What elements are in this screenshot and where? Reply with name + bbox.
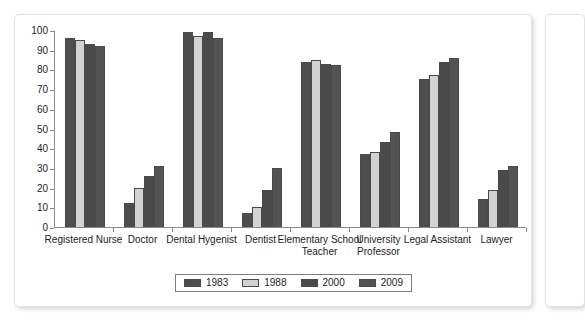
bar bbox=[380, 142, 390, 227]
y-tick-label: 100 bbox=[31, 26, 48, 36]
bar-group bbox=[232, 31, 291, 227]
plot-area: 0102030405060708090100 bbox=[54, 31, 526, 228]
y-tick-label: 70 bbox=[37, 85, 48, 95]
bar bbox=[154, 166, 164, 227]
y-tick-mark bbox=[50, 169, 54, 170]
y-tick-mark bbox=[50, 208, 54, 209]
legend-label: 1988 bbox=[264, 278, 286, 288]
bar bbox=[203, 32, 213, 227]
bar-group bbox=[468, 31, 527, 227]
y-tick-mark bbox=[50, 110, 54, 111]
bar bbox=[213, 38, 223, 227]
x-axis-category-label: Lawyer bbox=[454, 234, 540, 246]
legend-swatch bbox=[359, 279, 376, 287]
legend-item[interactable]: 1983 bbox=[184, 278, 228, 288]
x-tick-mark bbox=[526, 228, 527, 232]
bar bbox=[429, 75, 439, 227]
x-tick-mark bbox=[113, 228, 114, 232]
legend-label: 2000 bbox=[323, 278, 345, 288]
legend-swatch bbox=[301, 279, 318, 287]
legend-swatch bbox=[242, 279, 259, 287]
bar bbox=[301, 62, 311, 227]
y-tick-mark bbox=[50, 90, 54, 91]
bar bbox=[193, 36, 203, 227]
bar bbox=[262, 190, 272, 227]
y-tick-label: 50 bbox=[37, 125, 48, 135]
bar bbox=[498, 170, 508, 227]
bar bbox=[321, 64, 331, 228]
bar bbox=[331, 65, 341, 227]
legend-label: 2009 bbox=[381, 278, 403, 288]
legend-swatch bbox=[184, 279, 201, 287]
legend-item[interactable]: 2000 bbox=[301, 278, 345, 288]
legend-item[interactable]: 1988 bbox=[242, 278, 286, 288]
x-tick-mark bbox=[349, 228, 350, 232]
y-tick-mark bbox=[50, 228, 54, 229]
y-tick-label: 40 bbox=[37, 144, 48, 154]
bar bbox=[134, 188, 144, 227]
y-tick-label: 80 bbox=[37, 65, 48, 75]
bar-group bbox=[350, 31, 409, 227]
bar bbox=[75, 40, 85, 227]
bar bbox=[183, 32, 193, 227]
y-tick-mark bbox=[50, 31, 54, 32]
y-tick-label: 90 bbox=[37, 46, 48, 56]
y-tick-label: 0 bbox=[42, 223, 48, 233]
x-tick-mark bbox=[290, 228, 291, 232]
bar bbox=[124, 203, 134, 227]
x-tick-mark bbox=[408, 228, 409, 232]
y-tick-label: 20 bbox=[37, 184, 48, 194]
bar-group bbox=[55, 31, 114, 227]
legend-label: 1983 bbox=[206, 278, 228, 288]
bar bbox=[488, 190, 498, 227]
bar bbox=[390, 132, 400, 227]
bar bbox=[439, 62, 449, 227]
bar bbox=[478, 199, 488, 227]
bar bbox=[370, 152, 380, 227]
chart-legend: 1983198820002009 bbox=[175, 274, 412, 292]
side-panel bbox=[545, 14, 585, 307]
y-tick-mark bbox=[50, 149, 54, 150]
bar bbox=[272, 168, 282, 227]
y-tick-mark bbox=[50, 51, 54, 52]
bar-group bbox=[291, 31, 350, 227]
bar-groups bbox=[55, 31, 526, 227]
bar-chart: 0102030405060708090100 Registered NurseD… bbox=[15, 15, 531, 306]
y-tick-label: 30 bbox=[37, 164, 48, 174]
bar bbox=[252, 207, 262, 227]
y-tick-label: 60 bbox=[37, 105, 48, 115]
legend-item[interactable]: 2009 bbox=[359, 278, 403, 288]
bar-group bbox=[173, 31, 232, 227]
bar bbox=[242, 213, 252, 227]
bar bbox=[85, 44, 95, 227]
bar bbox=[508, 166, 518, 227]
x-tick-mark bbox=[172, 228, 173, 232]
y-tick-label: 10 bbox=[37, 203, 48, 213]
bar bbox=[144, 176, 154, 227]
bar-group bbox=[114, 31, 173, 227]
bar bbox=[65, 38, 75, 227]
bar bbox=[360, 154, 370, 227]
y-tick-mark bbox=[50, 130, 54, 131]
x-tick-mark bbox=[231, 228, 232, 232]
y-tick-mark bbox=[50, 70, 54, 71]
bar bbox=[419, 79, 429, 227]
chart-panel: 0102030405060708090100 Registered NurseD… bbox=[14, 14, 532, 307]
bar-group bbox=[409, 31, 468, 227]
bar bbox=[311, 60, 321, 227]
x-tick-mark bbox=[467, 228, 468, 232]
bar bbox=[95, 46, 105, 227]
y-tick-mark bbox=[50, 189, 54, 190]
bar bbox=[449, 58, 459, 227]
